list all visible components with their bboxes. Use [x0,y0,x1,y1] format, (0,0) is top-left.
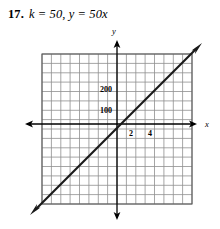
x-axis-label: x [204,119,209,129]
equation-k: k = 50 [29,7,62,21]
y-tick-label-100: 100 [100,106,112,115]
x-tick-label-2: 2 [129,129,133,138]
y-tick-label-200: 200 [100,85,112,94]
graph-background [0,22,220,229]
problem-header: 17.k = 50, y = 50x [8,7,108,22]
equation-y: y = 50x [69,7,108,21]
problem-number: 17. [8,7,24,21]
x-tick-label-4: 4 [148,129,152,138]
problem-equations: k = 50, y = 50x [24,7,108,21]
problem-figure: 17.k = 50, y = 50x [0,0,220,229]
coordinate-graph: y x 200 100 2 4 [0,22,220,229]
y-axis-label: y [111,26,116,36]
